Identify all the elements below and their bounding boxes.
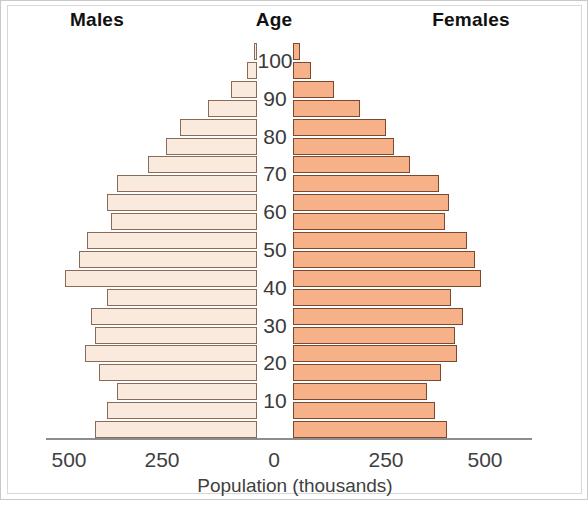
- bar-female-50-54: [293, 232, 467, 249]
- bar-male-55-59: [111, 213, 257, 230]
- age-tick-90: 90: [257, 88, 293, 109]
- population-pyramid-plot: 100908070605040302010 5002500250500 Popu…: [1, 1, 588, 501]
- bar-female-100+: [293, 43, 300, 60]
- figure-panel: Males Age Females 100908070605040302010 …: [0, 0, 588, 500]
- bar-female-25-29: [293, 327, 455, 344]
- bar-male-80-84: [180, 119, 257, 136]
- bar-female-0-4: [293, 421, 447, 438]
- bar-female-35-39: [293, 289, 451, 306]
- bar-male-65-69: [117, 175, 257, 192]
- bar-female-75-79: [293, 138, 394, 155]
- bar-female-5-9: [293, 402, 435, 419]
- x-tick-2: 0: [239, 448, 309, 472]
- bar-male-20-24: [85, 345, 257, 362]
- x-tick-4: 500: [450, 448, 520, 472]
- bar-male-10-14: [117, 383, 257, 400]
- bar-female-10-14: [293, 383, 427, 400]
- bar-female-65-69: [293, 175, 439, 192]
- bar-male-85-89: [208, 100, 257, 117]
- bar-female-55-59: [293, 213, 445, 230]
- bar-male-15-19: [99, 364, 257, 381]
- bar-male-75-79: [166, 138, 257, 155]
- age-tick-100: 100: [257, 50, 293, 71]
- bar-male-50-54: [87, 232, 257, 249]
- x-tick-3: 250: [351, 448, 421, 472]
- bar-male-70-74: [148, 156, 257, 173]
- figure-caption-strip: Figure 7.4.2 UK population distribution …: [0, 500, 588, 526]
- bar-female-95-99: [293, 62, 311, 79]
- x-axis-line: [46, 438, 532, 440]
- bar-female-80-84: [293, 119, 386, 136]
- bar-female-90-94: [293, 81, 334, 98]
- age-tick-70: 70: [257, 163, 293, 184]
- bar-female-40-44: [293, 270, 481, 287]
- bar-female-85-89: [293, 100, 360, 117]
- bar-male-30-34: [91, 308, 257, 325]
- bar-female-70-74: [293, 156, 410, 173]
- age-tick-50: 50: [257, 239, 293, 260]
- bar-female-45-49: [293, 251, 475, 268]
- age-tick-20: 20: [257, 352, 293, 373]
- bar-male-95-99: [247, 62, 257, 79]
- bar-male-40-44: [65, 270, 257, 287]
- age-tick-60: 60: [257, 201, 293, 222]
- x-axis-title: Population (thousands): [1, 475, 588, 497]
- bar-male-35-39: [107, 289, 257, 306]
- bar-male-90-94: [231, 81, 257, 98]
- age-tick-30: 30: [257, 315, 293, 336]
- bar-female-15-19: [293, 364, 441, 381]
- age-tick-40: 40: [257, 277, 293, 298]
- bar-male-60-64: [107, 194, 257, 211]
- bar-female-30-34: [293, 308, 463, 325]
- age-tick-80: 80: [257, 126, 293, 147]
- x-tick-0: 500: [34, 448, 104, 472]
- bar-male-25-29: [95, 327, 257, 344]
- bar-female-60-64: [293, 194, 449, 211]
- bar-male-0-4: [95, 421, 257, 438]
- bar-female-20-24: [293, 345, 457, 362]
- figure-page: Males Age Females 100908070605040302010 …: [0, 0, 588, 526]
- bar-male-5-9: [107, 402, 257, 419]
- bar-male-45-49: [79, 251, 257, 268]
- x-tick-1: 250: [127, 448, 197, 472]
- age-tick-10: 10: [257, 390, 293, 411]
